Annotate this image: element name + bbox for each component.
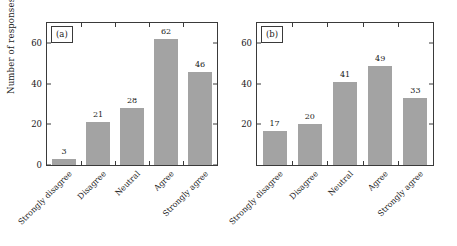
y-axis-label-a: Number of responses: [6, 0, 16, 94]
bar-group-a: 321286246: [47, 23, 217, 165]
bar: [154, 39, 177, 165]
bar-group-b: 1720414933: [257, 23, 433, 165]
y-tick-mark: [47, 83, 51, 84]
x-tick-mark-top: [81, 23, 82, 27]
x-tick-label: Strongly disagree: [17, 170, 74, 227]
panel-label-a: (a): [51, 26, 73, 43]
y-tick-label: 0: [37, 161, 42, 170]
x-tick-mark: [292, 161, 293, 165]
y-tick-mark: [257, 43, 261, 44]
x-tick-mark: [398, 161, 399, 165]
bar: [263, 131, 287, 165]
x-tick-label: Disagree: [76, 170, 107, 201]
bar-value-label: 3: [47, 148, 81, 156]
bar: [52, 159, 75, 165]
x-tick-mark-top: [292, 23, 293, 27]
bar-slot: 17: [257, 23, 292, 165]
x-tick-mark: [327, 161, 328, 165]
x-tick-mark-top: [183, 23, 184, 27]
y-tick-mark: [47, 165, 51, 166]
bar: [86, 122, 109, 165]
y-tick-mark-right: [213, 124, 217, 125]
bar: [368, 66, 392, 165]
x-tick-label: Neutral: [114, 170, 142, 198]
y-tick-mark-right: [429, 124, 433, 125]
y-tick-label: 20: [31, 120, 42, 129]
y-tick-mark: [257, 124, 261, 125]
bar: [333, 82, 357, 165]
y-tick-label: 60: [241, 39, 252, 48]
figure-two-panel-bar-chart: Number of responses (a) 321286246 020406…: [0, 0, 457, 246]
plot-area-a: (a) 321286246 0204060Strongly disagreeDi…: [46, 22, 218, 166]
panel-b: (b) 1720414933 204060Strongly disagreeDi…: [229, 0, 457, 246]
bar-value-label: 28: [115, 97, 149, 105]
y-tick-mark-right: [429, 83, 433, 84]
x-tick-mark-top: [149, 23, 150, 27]
bar-slot: 3: [47, 23, 81, 165]
bar-slot: 41: [327, 23, 362, 165]
x-tick-mark: [115, 161, 116, 165]
bar-slot: 62: [149, 23, 183, 165]
x-tick-label: Neutral: [327, 170, 355, 198]
bar: [298, 124, 322, 165]
y-tick-label: 20: [241, 120, 252, 129]
y-tick-label: 40: [31, 80, 42, 89]
bar: [403, 98, 427, 165]
x-tick-label: Agree: [153, 170, 176, 193]
x-tick-mark-top: [363, 23, 364, 27]
x-tick-label: Agree: [367, 170, 390, 193]
y-tick-mark-right: [213, 165, 217, 166]
x-tick-mark-top: [327, 23, 328, 27]
x-tick-mark-top: [115, 23, 116, 27]
bar-value-label: 33: [398, 87, 433, 95]
panel-a: Number of responses (a) 321286246 020406…: [0, 0, 229, 246]
y-tick-mark-right: [429, 43, 433, 44]
x-tick-mark: [363, 161, 364, 165]
bar-value-label: 20: [292, 113, 327, 121]
bar-slot: 49: [363, 23, 398, 165]
panel-label-b: (b): [261, 26, 283, 43]
y-tick-mark: [257, 83, 261, 84]
bar-value-label: 41: [327, 71, 362, 79]
x-tick-mark: [149, 161, 150, 165]
bar-value-label: 17: [257, 120, 292, 128]
bar-slot: 21: [81, 23, 115, 165]
y-tick-label: 40: [241, 80, 252, 89]
bar: [120, 108, 143, 165]
bar-value-label: 46: [183, 61, 217, 69]
bar: [188, 72, 211, 165]
bar-value-label: 21: [81, 111, 115, 119]
plot-area-b: (b) 1720414933 204060Strongly disagreeDi…: [256, 22, 434, 166]
y-tick-mark: [47, 124, 51, 125]
y-tick-mark-right: [213, 83, 217, 84]
bar-slot: 28: [115, 23, 149, 165]
y-tick-mark: [47, 43, 51, 44]
bar-value-label: 49: [363, 55, 398, 63]
x-tick-mark: [183, 161, 184, 165]
y-tick-label: 60: [31, 39, 42, 48]
x-tick-mark-top: [398, 23, 399, 27]
bar-slot: 33: [398, 23, 433, 165]
y-tick-mark-right: [213, 43, 217, 44]
bar-slot: 20: [292, 23, 327, 165]
x-tick-label: Strongly disagree: [228, 170, 285, 227]
x-tick-label: Disagree: [288, 170, 319, 201]
bar-slot: 46: [183, 23, 217, 165]
bar-value-label: 62: [149, 28, 183, 36]
x-tick-mark: [81, 161, 82, 165]
